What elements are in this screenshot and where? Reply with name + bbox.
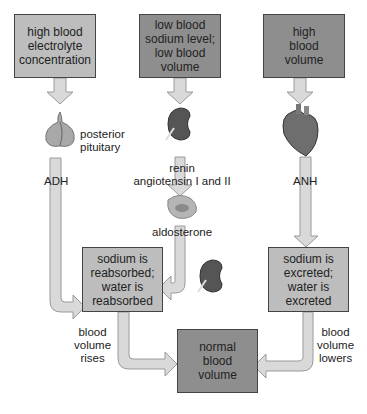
box-low-sodium: low blood sodium level; low blood volume — [139, 14, 221, 78]
arrow-highvolume-down — [287, 78, 313, 104]
label-blood-volume-lowers: blood volume lowers — [317, 326, 354, 365]
label-posterior-pituitary: posterior pituitary — [80, 128, 125, 154]
label-aldosterone: aldosterone — [152, 226, 212, 239]
label-anh: ANH — [293, 175, 317, 188]
arrow-lowsodium-down — [167, 78, 193, 104]
kidney-icon — [168, 108, 190, 140]
box-reabsorbed: sodium is reabsorbed; water is reabsorbe… — [82, 247, 163, 312]
arrow-electrolyte-down — [47, 78, 73, 104]
arrow-rises — [118, 312, 177, 376]
label-adh: ADH — [44, 175, 68, 188]
arrow-anh — [294, 157, 318, 247]
label-blood-volume-rises: blood volume rises — [74, 326, 111, 365]
box-high-volume: high blood volume — [263, 14, 345, 78]
box-excreted: sodium is excreted; water is excreted — [268, 247, 349, 312]
pituitary-gland-icon — [46, 112, 75, 146]
box-high-electrolyte: high blood electrolyte concentration — [14, 14, 96, 78]
arrow-lowers — [254, 312, 313, 378]
box-normal-volume: normal blood volume — [177, 329, 258, 393]
label-renin: renin angiotensin I and II — [120, 162, 244, 188]
heart-icon — [283, 104, 318, 156]
kidney-icon-2 — [200, 260, 222, 292]
